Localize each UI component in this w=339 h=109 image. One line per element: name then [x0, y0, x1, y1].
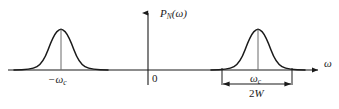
negative-carrier-subscript: c	[63, 78, 66, 87]
psd-axis-label: PN(ω)	[160, 8, 187, 21]
psd-figure: PN(ω) −ωc 0 ωc 2W ω	[0, 0, 339, 109]
psd-axis-label-argument: (ω)	[172, 7, 187, 19]
positive-carrier-subscript: c	[258, 77, 261, 86]
negative-carrier-label: −ωc	[48, 74, 67, 87]
bandwidth-label-symbol: W	[255, 87, 264, 99]
positive-carrier-symbol: ω	[250, 72, 258, 84]
negative-carrier-symbol: −ω	[48, 73, 63, 85]
omega-axis-label: ω	[324, 58, 332, 69]
psd-axis-label-symbol: P	[160, 7, 167, 19]
positive-carrier-label: ωc	[250, 73, 261, 86]
bandwidth-label: 2W	[249, 88, 264, 99]
origin-label: 0	[152, 73, 158, 84]
